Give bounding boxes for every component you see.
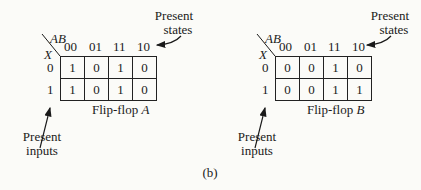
col-header: 01 <box>89 39 102 55</box>
cell: 0 <box>276 57 300 79</box>
present-inputs-label: Present inputs <box>235 130 279 158</box>
map-title: Flip-flop A <box>92 103 149 117</box>
present-states-label: Present states <box>367 9 413 37</box>
kmap-grid: 0 0 1 0 0 0 1 1 <box>275 56 372 101</box>
states-arrow-a <box>157 36 181 45</box>
col-header: 11 <box>113 39 126 55</box>
row-header: 0 <box>262 60 269 76</box>
present-inputs-label: Present inputs <box>20 130 64 158</box>
row-header: 1 <box>47 82 54 98</box>
states-arrow-b <box>367 36 391 45</box>
row-header: 1 <box>262 82 269 98</box>
col-header: 10 <box>352 39 365 55</box>
col-header: 00 <box>279 39 292 55</box>
col-header: 10 <box>137 39 150 55</box>
col-header: 11 <box>328 39 341 55</box>
cell: 1 <box>61 57 85 79</box>
cell: 0 <box>133 79 157 101</box>
cell: 1 <box>324 79 348 101</box>
row-header: 0 <box>47 60 54 76</box>
cell: 1 <box>109 57 133 79</box>
cell: 1 <box>109 79 133 101</box>
cell: 0 <box>300 79 324 101</box>
cell: 1 <box>324 57 348 79</box>
cell: 0 <box>300 57 324 79</box>
cell: 0 <box>133 57 157 79</box>
col-header: 01 <box>304 39 317 55</box>
map-title: Flip-flop B <box>307 103 364 117</box>
cell: 0 <box>276 79 300 101</box>
kmap-grid: 1 0 1 0 1 0 1 0 <box>60 56 157 101</box>
cell: 0 <box>85 79 109 101</box>
present-states-label: Present states <box>151 9 197 37</box>
cell: 1 <box>61 79 85 101</box>
cell: 0 <box>348 57 372 79</box>
col-header: 00 <box>64 39 77 55</box>
cell: 1 <box>348 79 372 101</box>
figure-label: (b) <box>198 166 222 180</box>
cell: 0 <box>85 57 109 79</box>
